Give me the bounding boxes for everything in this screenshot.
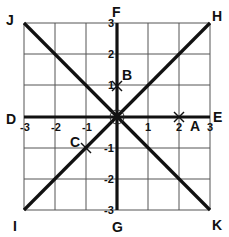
label-point-b: B: [122, 67, 132, 83]
x-tick: 2: [176, 121, 182, 133]
label-point-a: A: [190, 118, 200, 134]
label-i: I: [13, 218, 17, 234]
x-tick: 1: [145, 121, 151, 133]
label-d: D: [6, 111, 16, 127]
y-tick: 2: [108, 48, 114, 60]
label-g: G: [112, 219, 123, 235]
x-tick: -3: [20, 121, 30, 133]
x-tick: 3: [207, 121, 213, 133]
label-point-c: C: [70, 134, 80, 150]
y-tick: -3: [104, 204, 114, 216]
y-tick: -1: [104, 142, 114, 154]
x-tick: -1: [82, 121, 92, 133]
label-j: J: [6, 12, 14, 28]
y-tick: -2: [104, 173, 114, 185]
x-tick: -2: [51, 121, 61, 133]
label-k: K: [212, 217, 222, 233]
y-tick: 3: [108, 17, 114, 29]
label-h: H: [212, 8, 222, 24]
y-tick: 1: [108, 79, 114, 91]
coordinate-diagram: J F H D E I G K A B C -3 -2 -1 1 2 3 3 2…: [0, 0, 229, 237]
label-e: E: [213, 109, 222, 125]
